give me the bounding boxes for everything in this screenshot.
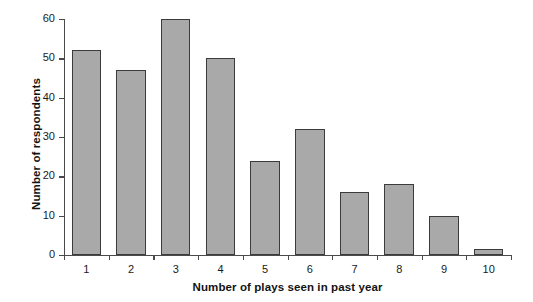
y-tick-label: 0 xyxy=(49,248,55,260)
y-axis-title: Number of respondents xyxy=(30,44,42,244)
x-axis-tick xyxy=(511,255,512,260)
y-tick-label: 20 xyxy=(43,169,55,181)
x-axis-tick xyxy=(109,255,110,260)
x-axis-title: Number of plays seen in past year xyxy=(64,281,511,293)
x-axis-tick xyxy=(153,255,154,260)
bar xyxy=(429,216,459,255)
y-axis-line xyxy=(64,19,65,255)
y-axis-tick: 50 xyxy=(59,58,64,59)
x-tick-label: 10 xyxy=(469,263,509,275)
x-axis-tick xyxy=(466,255,467,260)
bar xyxy=(295,129,325,255)
x-tick-label: 5 xyxy=(245,263,285,275)
x-tick-label: 2 xyxy=(111,263,151,275)
bar xyxy=(72,50,102,255)
x-axis-tick xyxy=(422,255,423,260)
x-tick-label: 7 xyxy=(335,263,375,275)
x-axis-tick xyxy=(198,255,199,260)
y-axis-tick: 40 xyxy=(59,98,64,99)
y-axis-tick: 10 xyxy=(59,216,64,217)
x-tick-label: 9 xyxy=(424,263,464,275)
y-tick-label: 40 xyxy=(43,91,55,103)
x-tick-label: 6 xyxy=(290,263,330,275)
x-tick-label: 1 xyxy=(66,263,106,275)
x-tick-label: 4 xyxy=(200,263,240,275)
y-tick-label: 30 xyxy=(43,130,55,142)
bar-chart-figure: Number of respondents 0102030405060 1234… xyxy=(0,0,533,302)
y-tick-label: 50 xyxy=(43,51,55,63)
x-axis-tick xyxy=(243,255,244,260)
x-axis-tick xyxy=(332,255,333,260)
bar xyxy=(116,70,146,255)
bar xyxy=(206,58,236,255)
y-tick-label: 60 xyxy=(43,12,55,24)
y-axis-tick: 20 xyxy=(59,176,64,177)
bar xyxy=(161,19,191,255)
x-axis-tick xyxy=(288,255,289,260)
bar xyxy=(384,184,414,255)
bar xyxy=(250,161,280,255)
x-tick-label: 8 xyxy=(379,263,419,275)
x-tick-label: 3 xyxy=(156,263,196,275)
y-tick-label: 10 xyxy=(43,209,55,221)
bar xyxy=(474,249,504,255)
y-axis-tick: 30 xyxy=(59,137,64,138)
bar xyxy=(340,192,370,255)
x-axis-tick xyxy=(377,255,378,260)
plot-area: 0102030405060 12345678910 xyxy=(64,19,511,255)
x-axis-tick xyxy=(64,255,65,260)
y-axis-tick: 60 xyxy=(59,19,64,20)
